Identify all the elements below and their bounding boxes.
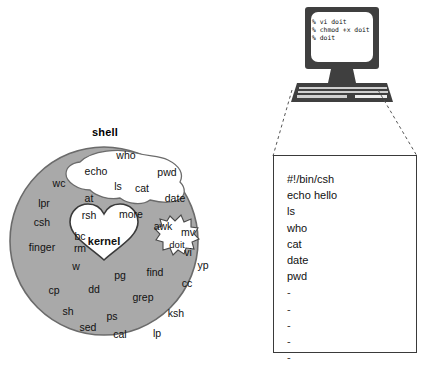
shell-command-more: more	[119, 209, 143, 220]
terminal-output: % vi doit % chmod +x doit % doit	[312, 18, 396, 43]
shell-command-sh: sh	[62, 306, 73, 317]
shell-command-yp: yp	[197, 260, 208, 271]
terminal-line: % chmod +x doit	[312, 26, 396, 34]
terminal-line: % doit	[312, 34, 396, 42]
cloud-command-ls: ls	[114, 181, 122, 192]
script-line: -	[287, 301, 407, 317]
script-listing-text: #!/bin/csh echo hello ls who cat date pw…	[287, 171, 407, 365]
script-line: pwd	[287, 268, 407, 284]
script-line: who	[287, 220, 407, 236]
cloud-command-date: date	[165, 193, 185, 204]
shell-command-awk: awk	[154, 221, 173, 232]
diagram-canvas: shell who echo pwd ls cat date wc at lpr…	[0, 0, 437, 368]
shell-command-dd: dd	[88, 284, 100, 295]
shell-command-rsh: rsh	[82, 210, 97, 221]
shell-command-cal: cal	[113, 329, 126, 340]
shell-title: shell	[60, 126, 150, 138]
shell-command-lp: lp	[153, 328, 161, 339]
shell-command-ps: ps	[106, 311, 117, 322]
shell-command-pg: pg	[114, 270, 126, 281]
script-line: -	[287, 284, 407, 300]
monitor-neck	[328, 69, 356, 83]
script-line: echo hello	[287, 187, 407, 203]
kernel-label: kernel	[88, 236, 120, 247]
shell-command-grep: grep	[132, 292, 153, 303]
shell-command-finger: finger	[29, 242, 55, 253]
script-line: -	[287, 317, 407, 333]
shell-command-cp: cp	[48, 285, 59, 296]
script-line: #!/bin/csh	[287, 171, 407, 187]
cloud-command-cat: cat	[135, 183, 149, 194]
shell-command-w: w	[72, 261, 80, 272]
doit-label: doit	[169, 240, 184, 250]
script-line: cat	[287, 236, 407, 252]
script-line: date	[287, 252, 407, 268]
shell-command-cc: cc	[182, 278, 193, 289]
shell-command-vi: vi	[184, 247, 192, 258]
shell-command-rm: rm	[74, 243, 86, 254]
script-line: -	[287, 349, 407, 365]
script-line: -	[287, 333, 407, 349]
shell-command-sed: sed	[80, 322, 97, 333]
shell-command-ksh: ksh	[168, 308, 184, 319]
cloud-command-pwd: pwd	[157, 167, 176, 178]
shell-command-mv: mv	[181, 227, 195, 238]
shell-command-wc: wc	[53, 178, 66, 189]
script-line: ls	[287, 203, 407, 219]
terminal-line: % vi doit	[312, 18, 396, 26]
shell-command-lpr: lpr	[38, 198, 50, 209]
callout-line-left	[273, 90, 292, 156]
callout-line-right	[378, 90, 417, 156]
shell-command-find: find	[147, 267, 164, 278]
cloud-command-who: who	[116, 150, 135, 161]
shell-command-at: at	[85, 193, 94, 204]
cloud-command-echo: echo	[85, 166, 108, 177]
shell-command-bc: bc	[74, 231, 85, 242]
shell-command-csh: csh	[34, 217, 50, 228]
